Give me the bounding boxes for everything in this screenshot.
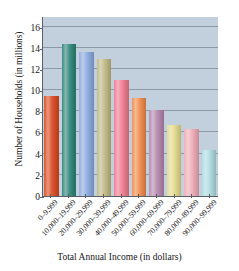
y-axis-tick-label: 0 <box>22 192 40 202</box>
x-axis-tick-mark <box>85 194 86 198</box>
bar-shading <box>202 150 217 196</box>
y-axis-tick-label: 10 <box>22 86 40 96</box>
x-axis-tick-mark <box>68 194 69 198</box>
y-axis-tick-label: 8 <box>22 107 40 117</box>
bar-shading <box>79 52 94 196</box>
plot-area <box>42 17 218 197</box>
x-axis-tick-mark <box>156 194 157 198</box>
x-axis-tick-mark <box>50 194 51 198</box>
bar[interactable] <box>79 52 94 196</box>
bar-shading <box>62 44 77 196</box>
x-axis-tick-mark <box>191 194 192 198</box>
y-axis-tick-label: 16 <box>22 23 40 33</box>
bar[interactable] <box>149 110 164 196</box>
bar-shading <box>114 80 129 196</box>
y-axis-tick-label: 2 <box>22 171 40 181</box>
bar[interactable] <box>114 80 129 196</box>
bar[interactable] <box>44 96 59 196</box>
bar[interactable] <box>62 44 77 196</box>
x-axis-tick-mark <box>103 194 104 198</box>
y-axis-tick-labels: 0246810121416 <box>18 17 40 197</box>
x-axis-tick-mark <box>174 194 175 198</box>
bar[interactable] <box>97 59 112 196</box>
y-axis-tick-label: 12 <box>22 65 40 75</box>
x-axis-tick-mark <box>121 194 122 198</box>
bar[interactable] <box>184 129 199 196</box>
x-axis-tick-labels: 0–9,99910,000–19,99920,000–29,99930,000–… <box>42 198 218 250</box>
bar[interactable] <box>132 98 147 196</box>
bar-shading <box>44 96 59 196</box>
bar-shading <box>167 125 182 196</box>
bar-shading <box>149 110 164 196</box>
y-axis-tick-label: 4 <box>22 150 40 160</box>
x-axis-title: Total Annual Income (in dollars) <box>0 252 239 262</box>
x-axis-tick-mark <box>209 194 210 198</box>
bar-shading <box>132 98 147 196</box>
bar[interactable] <box>202 150 217 196</box>
bar-chart-figure: Number of Households (in millions) 02468… <box>0 0 239 271</box>
bar-shading <box>184 129 199 196</box>
bar-series <box>43 17 218 196</box>
bar-shading <box>97 59 112 196</box>
bar[interactable] <box>167 125 182 196</box>
y-axis-tick-label: 6 <box>22 128 40 138</box>
y-axis-tick-label: 14 <box>22 44 40 54</box>
x-axis-tick-mark <box>138 194 139 198</box>
